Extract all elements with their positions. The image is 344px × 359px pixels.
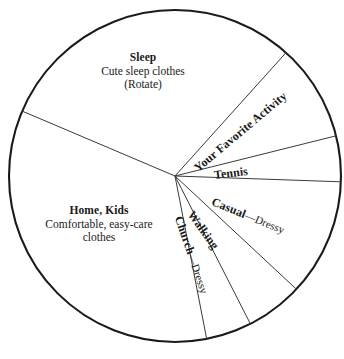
wedge-label-sleep-line2: (Rotate) <box>73 78 213 92</box>
wedge-label-home-kids: Home, Kids Comfortable, easy-care clothe… <box>24 204 174 245</box>
wedge-label-home-kids-title: Home, Kids <box>24 204 174 218</box>
wedge-label-sleep-title: Sleep <box>73 51 213 65</box>
wardrobe-lifestyle-pie-chart: Sleep Cute sleep clothes (Rotate) Home, … <box>0 0 344 359</box>
wedge-label-sleep-line1: Cute sleep clothes <box>73 65 213 79</box>
wedge-label-home-kids-line1: Comfortable, easy-care <box>24 218 174 232</box>
wedge-label-home-kids-line2: clothes <box>24 231 174 245</box>
wedge-label-tennis-title: Tennis <box>213 164 249 182</box>
wedge-label-sleep: Sleep Cute sleep clothes (Rotate) <box>73 51 213 92</box>
